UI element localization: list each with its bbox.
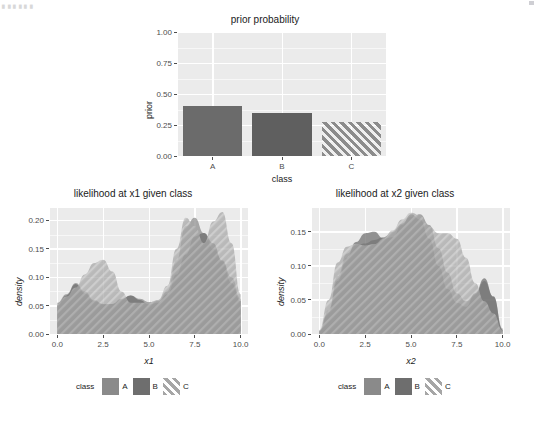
legend-entry-a[interactable]: A [102, 378, 127, 395]
y-axis-tick-label: 1.00 [144, 28, 172, 37]
x-axis-tick [502, 335, 503, 338]
clipped-marker [529, 1, 534, 5]
legend-label-b: B [153, 382, 158, 391]
x-axis-tick-label: 5.0 [143, 340, 154, 349]
y-axis-tick-label: 0.00 [144, 152, 172, 161]
bar-c [322, 122, 382, 156]
legend: classABC [76, 378, 189, 395]
legend-swatch-a-icon [364, 378, 381, 395]
x-axis-tick-label: 0.0 [52, 340, 63, 349]
legend-title: class [76, 382, 94, 391]
y-axis-tick-label: 0.15 [278, 227, 306, 236]
y-axis-tick-label: 0.20 [16, 216, 44, 225]
y-axis-tick [308, 334, 311, 335]
x-axis-tick [240, 335, 241, 338]
y-axis-tick-label: 0.05 [16, 301, 44, 310]
y-axis-tick-label: 0.00 [16, 330, 44, 339]
legend-label-b: B [415, 382, 420, 391]
legend-label-c: C [445, 382, 451, 391]
legend-entry-c[interactable]: C [425, 378, 451, 395]
clipped-text-fragment: ▖▖▖▖▖▖ [2, 1, 35, 9]
y-axis-tick-label: 0.15 [16, 244, 44, 253]
y-axis-tick [308, 265, 311, 266]
x-axis-tick [456, 335, 457, 338]
x-axis-tick [103, 335, 104, 338]
legend-swatch-c-icon [425, 378, 442, 395]
x-axis-tick [282, 157, 283, 160]
legend-title: class [338, 382, 356, 391]
plot-panel [312, 208, 510, 334]
y-axis-title: prior [144, 101, 154, 119]
y-axis-tick-label: 0.05 [278, 295, 306, 304]
plot-panel [50, 208, 248, 334]
y-axis-tick-label: 0.50 [144, 90, 172, 99]
y-axis-tick-label: 0.10 [278, 261, 306, 270]
prior-probability-chart: prior probability prior class 0.000.250.… [140, 14, 390, 186]
legend: classABC [338, 378, 451, 395]
legend-entry-c[interactable]: C [163, 378, 189, 395]
y-axis-tick [46, 277, 49, 278]
x-axis-tick-label: 10.0 [233, 340, 249, 349]
legend-swatch-b-icon [395, 378, 412, 395]
x-axis-tick [351, 157, 352, 160]
chart-title: likelihood at x2 given class [270, 188, 520, 199]
y-axis-tick [46, 305, 49, 306]
x-axis-tick-label: 2.5 [360, 340, 371, 349]
y-axis-tick-label: 0.75 [144, 59, 172, 68]
legend-entry-a[interactable]: A [364, 378, 389, 395]
y-axis-tick [308, 299, 311, 300]
plot-panel [178, 32, 386, 156]
bar-a [183, 106, 243, 156]
y-axis-tick-label: 0.25 [144, 121, 172, 130]
x-axis-tick [194, 335, 195, 338]
legend-label-a: A [384, 382, 389, 391]
y-axis-tick [174, 156, 177, 157]
legend-label-a: A [122, 382, 127, 391]
y-axis-tick [46, 220, 49, 221]
x-axis-tick-label: 7.5 [451, 340, 462, 349]
x-axis-tick-label: 5.0 [405, 340, 416, 349]
x-axis-title: x2 [312, 356, 510, 366]
legend-swatch-b-icon [133, 378, 150, 395]
x-axis-title: class [178, 174, 386, 184]
legend-entry-b[interactable]: B [395, 378, 420, 395]
y-axis-tick [174, 94, 177, 95]
y-axis-tick [46, 334, 49, 335]
legend-entry-b[interactable]: B [133, 378, 158, 395]
x-axis-tick-label: 2.5 [98, 340, 109, 349]
y-axis-tick [174, 125, 177, 126]
x-axis-title: x1 [50, 356, 248, 366]
x-axis-tick [411, 335, 412, 338]
x-axis-tick-label: 10.0 [495, 340, 511, 349]
likelihood-x1-chart: likelihood at x1 given class density x1 … [8, 188, 258, 418]
x-axis-tick [365, 335, 366, 338]
x-axis-tick [149, 335, 150, 338]
x-axis-tick [319, 335, 320, 338]
y-axis-tick [174, 32, 177, 33]
x-axis-tick [57, 335, 58, 338]
y-axis-tick-label: 0.10 [16, 273, 44, 282]
x-axis-tick-label: A [210, 162, 215, 171]
legend-swatch-a-icon [102, 378, 119, 395]
y-axis-tick-label: 0.00 [278, 330, 306, 339]
bar-b [252, 113, 312, 156]
figure-canvas: ▖▖▖▖▖▖ prior probability prior class 0.0… [0, 0, 537, 424]
x-axis-tick-label: 7.5 [189, 340, 200, 349]
chart-title: likelihood at x1 given class [8, 188, 258, 199]
x-axis-tick-label: B [279, 162, 284, 171]
density-area-c [57, 212, 240, 334]
y-axis-tick [174, 63, 177, 64]
x-axis-tick [212, 157, 213, 160]
legend-label-c: C [183, 382, 189, 391]
x-axis-tick-label: 0.0 [314, 340, 325, 349]
y-axis-tick [46, 248, 49, 249]
likelihood-x2-chart: likelihood at x2 given class density x2 … [270, 188, 520, 418]
y-axis-tick [308, 231, 311, 232]
legend-swatch-c-icon [163, 378, 180, 395]
x-axis-tick-label: C [348, 162, 354, 171]
density-area-c [319, 213, 502, 334]
chart-title: prior probability [140, 14, 390, 25]
